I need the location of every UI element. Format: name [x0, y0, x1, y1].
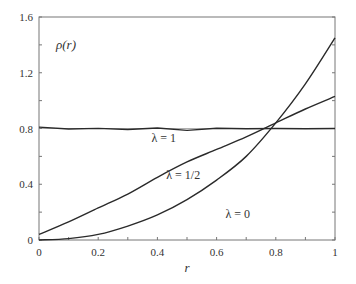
x-tick-label: 0.4 [151, 246, 165, 258]
y-tick-label: 0 [28, 234, 34, 246]
curve-labels: λ = 1λ = 1/2λ = 0 [151, 131, 250, 220]
x-tick-label: 0.6 [210, 246, 224, 258]
x-tick-label: 0.8 [269, 246, 283, 258]
x-tick-label: 0 [36, 246, 42, 258]
x-tick-label: 0.2 [91, 246, 105, 258]
y-tick-label: 0.4 [19, 178, 33, 190]
x-tick-label: 1 [332, 246, 338, 258]
curve-lambda-half [39, 96, 335, 234]
chart-container: 00.20.40.60.8100.40.81.21.6 λ = 1λ = 1/2… [0, 0, 356, 284]
curve-lambda-0 [39, 38, 335, 240]
y-tick-label: 1.2 [19, 67, 33, 79]
label-lambda-1: λ = 1 [151, 131, 176, 145]
label-lambda-half: λ = 1/2 [166, 168, 200, 182]
x-axis-label: r [184, 260, 190, 275]
y-axis-label: ρ(r) [55, 37, 76, 52]
y-tick-label: 1.6 [19, 11, 33, 23]
curves [39, 38, 335, 240]
line-chart: 00.20.40.60.8100.40.81.21.6 λ = 1λ = 1/2… [0, 0, 356, 284]
label-lambda-0: λ = 0 [225, 207, 250, 221]
y-tick-label: 0.8 [19, 123, 33, 135]
